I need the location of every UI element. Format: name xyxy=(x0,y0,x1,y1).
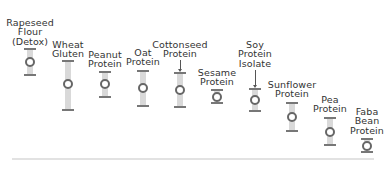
range-cap-bottom xyxy=(137,105,149,107)
range-cap-top xyxy=(211,89,223,91)
category-label: Sesame Protein xyxy=(177,68,257,87)
data-point-marker xyxy=(212,92,222,102)
range-cap-bottom xyxy=(62,109,74,111)
range-chart: Rapeseed Flour (Detox)Wheat GlutenPeanut… xyxy=(0,0,389,189)
data-point-marker xyxy=(362,141,372,151)
range-cap-bottom xyxy=(24,74,36,76)
range-cap-bottom xyxy=(211,102,223,104)
range-cap-top xyxy=(361,138,373,140)
range-cap-top xyxy=(99,71,111,73)
category-label: Cottonseed Protein xyxy=(140,40,220,59)
category-label: Soy Protein Isolate xyxy=(215,40,295,68)
data-point-marker xyxy=(138,83,148,93)
category-label: Faba Bean Protein xyxy=(327,107,389,135)
range-cap-bottom xyxy=(174,106,186,108)
range-cap-top xyxy=(137,70,149,72)
range-cap-bottom xyxy=(361,151,373,153)
data-point-marker xyxy=(63,79,73,89)
data-point-marker xyxy=(100,79,110,89)
range-cap-bottom xyxy=(99,96,111,98)
range-cap-bottom xyxy=(249,110,261,112)
range-cap-bottom xyxy=(286,130,298,132)
range-cap-bottom xyxy=(324,144,336,146)
baseline-axis xyxy=(12,158,374,160)
